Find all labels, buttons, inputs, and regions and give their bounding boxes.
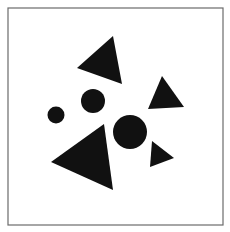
triangle-bottom-right-small [150, 141, 174, 167]
figure-canvas [0, 0, 230, 232]
circle-large [113, 115, 147, 149]
figure-frame [8, 8, 223, 225]
triangles-group [51, 36, 184, 190]
triangle-right [148, 76, 184, 109]
circle-small-left [48, 107, 65, 124]
circle-medium [81, 89, 105, 113]
triangle-bottom-large [51, 124, 113, 190]
shapes-figure [0, 0, 230, 232]
triangle-top [77, 36, 122, 84]
